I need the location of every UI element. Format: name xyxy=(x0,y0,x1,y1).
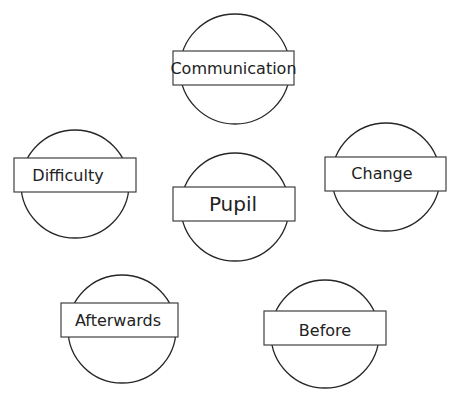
diagram-svg: Communication Difficulty Pupil Change Af… xyxy=(0,0,459,399)
node-label: Afterwards xyxy=(75,311,161,330)
node-label: Difficulty xyxy=(32,166,103,185)
node-pupil: Pupil xyxy=(173,153,295,261)
node-label: Communication xyxy=(170,59,296,78)
node-difficulty: Difficulty xyxy=(14,130,136,238)
node-label: Pupil xyxy=(209,192,257,216)
node-before: Before xyxy=(264,280,386,388)
node-label: Before xyxy=(299,321,351,340)
node-communication: Communication xyxy=(170,14,296,124)
word-circle-diagram: Communication Difficulty Pupil Change Af… xyxy=(0,0,459,399)
node-change: Change xyxy=(325,123,446,231)
node-label: Change xyxy=(351,164,412,183)
node-afterwards: Afterwards xyxy=(61,275,178,383)
